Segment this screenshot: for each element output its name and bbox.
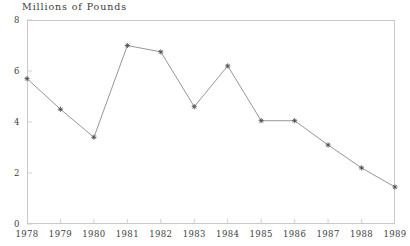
data-point-marker — [259, 118, 264, 123]
y-axis-ticks — [27, 20, 32, 224]
series-markers — [24, 43, 397, 190]
x-tick-label: 1982 — [144, 229, 178, 239]
data-point-marker — [225, 63, 230, 68]
x-tick-label: 1983 — [177, 229, 211, 239]
x-tick-label: 1987 — [311, 229, 345, 239]
data-point-marker — [158, 49, 163, 54]
x-tick-label: 1981 — [110, 229, 144, 239]
data-point-marker — [392, 184, 397, 189]
x-tick-label: 1986 — [278, 229, 312, 239]
y-tick-label: 8 — [2, 15, 20, 25]
series-line — [27, 46, 395, 188]
x-tick-label: 1979 — [43, 229, 77, 239]
data-point-marker — [359, 165, 364, 170]
y-tick-label: 0 — [2, 219, 20, 229]
line-chart: Millions of Pounds 02468 197819791980198… — [0, 0, 410, 246]
plot-graphics — [0, 0, 410, 246]
x-tick-label: 1984 — [211, 229, 245, 239]
x-tick-label: 1988 — [345, 229, 379, 239]
x-tick-label: 1978 — [10, 229, 44, 239]
y-tick-label: 2 — [2, 168, 20, 178]
y-tick-label: 6 — [2, 66, 20, 76]
data-point-marker — [24, 76, 29, 81]
data-point-marker — [192, 104, 197, 109]
x-tick-label: 1989 — [378, 229, 410, 239]
data-point-marker — [125, 43, 130, 48]
y-tick-label: 4 — [2, 117, 20, 127]
data-point-marker — [91, 135, 96, 140]
x-tick-label: 1985 — [244, 229, 278, 239]
x-tick-label: 1980 — [77, 229, 111, 239]
data-point-marker — [325, 142, 330, 147]
data-point-marker — [292, 118, 297, 123]
x-axis-ticks — [60, 219, 361, 224]
